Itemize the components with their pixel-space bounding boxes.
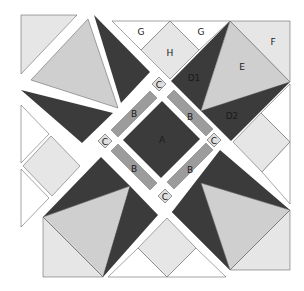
label-c-right: C [211,136,217,146]
label-e: E [239,62,245,72]
label-d1: D1 [188,73,201,83]
label-b-bottom-left: B [131,164,137,174]
label-d2: D2 [226,111,239,121]
label-a: A [159,135,166,145]
label-h: H [167,48,174,58]
label-b-bottom-right: B [187,165,193,175]
label-c-left: C [102,137,108,147]
label-g-left: G [138,27,145,37]
label-c-bottom: C [162,192,168,202]
quilt-block-diagram: A B B B B C C C C D1 D2 E F G G H [0,0,304,291]
label-g-right: G [198,27,205,37]
label-b-top-right: B [187,112,193,122]
label-b-top-left: B [131,109,137,119]
label-f: F [270,37,275,47]
label-c-top: C [156,80,162,90]
